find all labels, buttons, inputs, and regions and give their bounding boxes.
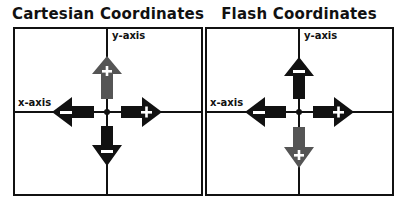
- cartesian-right-arrow-icon: [121, 97, 162, 127]
- flash-down-arrow-icon: [284, 127, 314, 168]
- flash-x-axis-label: x-axis: [210, 97, 243, 108]
- flash-up-arrow-icon: [284, 57, 314, 99]
- coordinate-diagrams: [0, 0, 406, 211]
- flash-axes: [206, 28, 393, 195]
- flash-right-arrow-icon: [313, 97, 354, 127]
- cartesian-up-arrow-icon: [92, 56, 122, 99]
- cartesian-left-arrow-icon: [52, 97, 94, 127]
- cartesian-axes: [14, 28, 202, 195]
- flash-left-arrow-icon: [245, 97, 286, 127]
- cartesian-down-arrow-icon: [92, 126, 122, 166]
- cartesian-y-axis-label: y-axis: [112, 30, 145, 41]
- cartesian-x-axis-label: x-axis: [18, 97, 51, 108]
- flash-y-axis-label: y-axis: [304, 30, 337, 41]
